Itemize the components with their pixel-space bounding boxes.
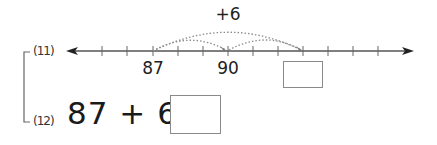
jump-label: +6 (215, 4, 240, 24)
tick-label-87: 87 (142, 58, 164, 78)
arc-87-90 (153, 40, 226, 51)
jump-arcs (153, 32, 301, 51)
equation-answer-box[interactable] (170, 95, 221, 134)
tick-label-90: 90 (217, 58, 239, 78)
arc-87-93 (153, 32, 301, 51)
bracket-line (24, 52, 30, 122)
problem-11-label: (11) (33, 44, 54, 58)
number-line-answer-box[interactable] (283, 61, 323, 88)
arc-90-93 (229, 40, 301, 50)
problem-12-label: (12) (33, 114, 54, 128)
